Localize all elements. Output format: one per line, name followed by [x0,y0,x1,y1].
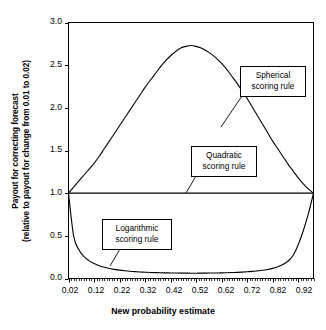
annotation-logarithmic-line2: scoring rule [108,234,166,245]
annotation-logarithmic-line1: Logarithmic [108,223,166,234]
annotation-quadratic-line1: Quadratic [197,150,251,161]
chart-figure: Payout for correcting forecast (relative… [0,0,326,330]
annotation-spherical-line1: Spherical [246,70,300,81]
annotation-quadratic-scoring-rule: Quadratic scoring rule [191,146,257,177]
plot-area [0,0,326,330]
leader-line-quadratic [186,176,196,193]
leader-line-spherical [221,96,242,127]
annotation-spherical-line2: scoring rule [246,81,300,92]
annotation-logarithmic-scoring-rule: Logarithmic scoring rule [102,219,172,250]
annotation-spherical-scoring-rule: Spherical scoring rule [240,66,306,97]
x-axis-major-ticks [70,279,299,283]
annotation-quadratic-line2: scoring rule [197,161,251,172]
leader-line-logarithmic [110,249,120,266]
y-axis-ticks [65,24,69,280]
